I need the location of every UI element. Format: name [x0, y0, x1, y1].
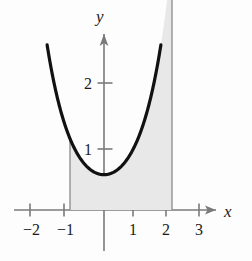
x-tick-label--1: −1 [57, 222, 74, 238]
x-tick-label-1: 1 [129, 222, 137, 238]
x-tick-label-2: 2 [162, 222, 170, 238]
y-axis-label: y [96, 8, 104, 25]
y-tick-label-1: 1 [84, 142, 92, 158]
shaded-area [70, 0, 172, 210]
x-axis-label: x [224, 203, 232, 220]
x-tick-label--2: −2 [23, 222, 40, 238]
y-tick-label-2: 2 [84, 76, 92, 92]
x-tick-label-3: 3 [195, 222, 203, 238]
graph-figure: −2 −1 1 2 3 1 2 y x [0, 0, 252, 261]
